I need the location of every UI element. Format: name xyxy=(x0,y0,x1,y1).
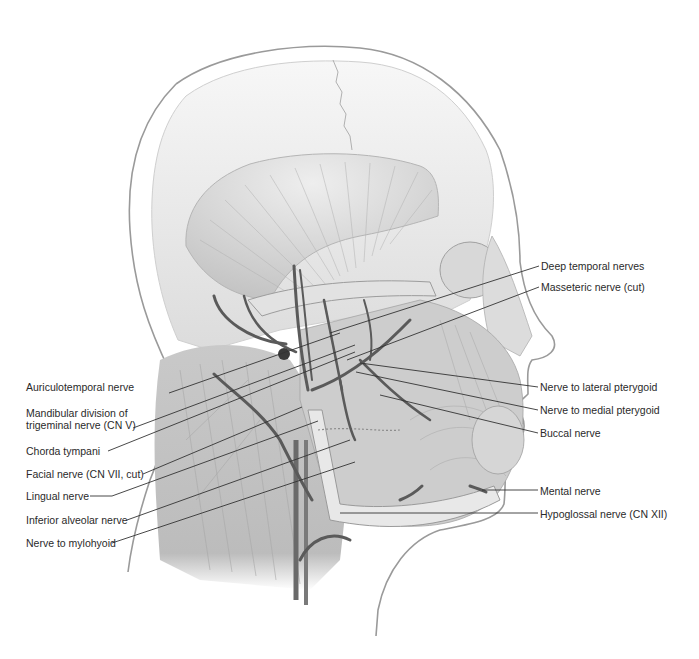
label-nerve-to-lateral-pterygoid: Nerve to lateral pterygoid xyxy=(540,381,657,393)
label-deep-temporal-nerves: Deep temporal nerves xyxy=(541,260,644,272)
head-illustration xyxy=(0,0,699,659)
label-mandibular-division-line1: Mandibular division of xyxy=(26,407,136,419)
label-buccal-nerve: Buccal nerve xyxy=(540,427,601,439)
label-mental-nerve: Mental nerve xyxy=(540,485,601,497)
label-masseteric-nerve: Masseteric nerve (cut) xyxy=(541,281,645,293)
label-nerve-to-medial-pterygoid: Nerve to medial pterygoid xyxy=(540,404,660,416)
label-inferior-alveolar-nerve: Inferior alveolar nerve xyxy=(26,514,128,526)
label-mandibular-division-line2: trigeminal nerve (CN V) xyxy=(26,419,136,431)
orbicularis-oris xyxy=(472,406,524,474)
label-chorda-tympani: Chorda tympani xyxy=(26,445,100,457)
label-lingual-nerve: Lingual nerve xyxy=(26,490,89,502)
anatomy-figure: Auriculotemporal nerve Mandibular divisi… xyxy=(0,0,699,659)
label-hypoglossal-nerve: Hypoglossal nerve (CN XII) xyxy=(540,508,667,520)
label-nerve-to-mylohyoid: Nerve to mylohyoid xyxy=(26,537,116,549)
label-mandibular-division: Mandibular division of trigeminal nerve … xyxy=(26,407,136,431)
label-auriculotemporal-nerve: Auriculotemporal nerve xyxy=(26,381,134,393)
label-facial-nerve: Facial nerve (CN VII, cut) xyxy=(26,468,144,480)
